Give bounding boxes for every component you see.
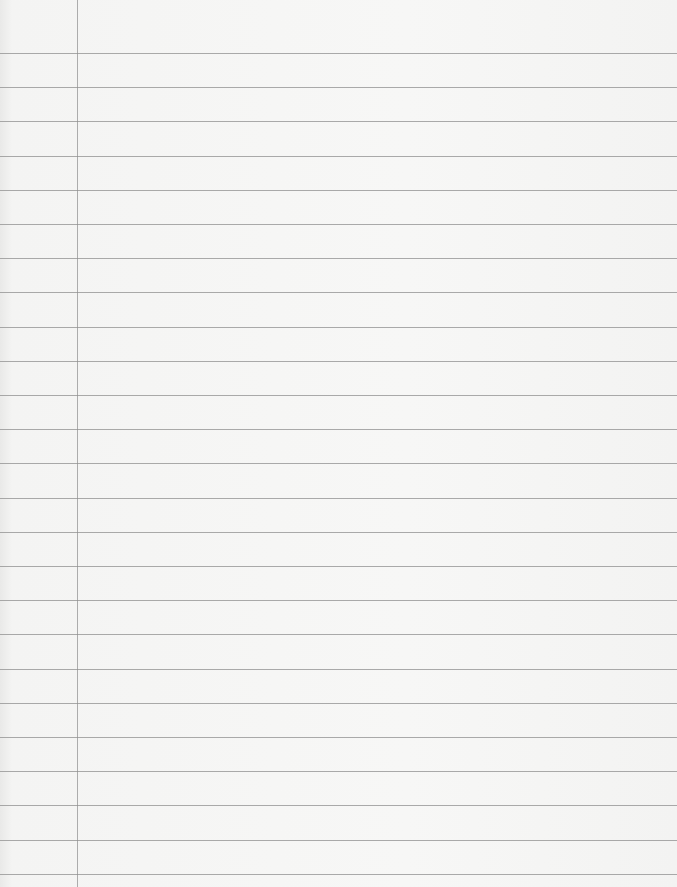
ruled-line [0, 327, 677, 328]
ruled-line [0, 498, 677, 499]
ruled-line [0, 361, 677, 362]
ruled-line [0, 258, 677, 259]
ruled-line [0, 156, 677, 157]
ruled-line [0, 87, 677, 88]
ruled-line [0, 53, 677, 54]
ruled-line [0, 600, 677, 601]
ruled-line [0, 190, 677, 191]
lined-paper-sheet [0, 0, 677, 887]
ruled-line [0, 566, 677, 567]
ruled-line [0, 292, 677, 293]
ruled-line [0, 429, 677, 430]
ruled-line [0, 532, 677, 533]
margin-line [77, 0, 78, 887]
ruled-line [0, 703, 677, 704]
ruled-line [0, 874, 677, 875]
ruled-line [0, 224, 677, 225]
ruled-line [0, 395, 677, 396]
ruled-line [0, 669, 677, 670]
ruled-line [0, 121, 677, 122]
ruled-line [0, 634, 677, 635]
ruled-line [0, 737, 677, 738]
ruled-line [0, 805, 677, 806]
ruled-line [0, 463, 677, 464]
ruled-line [0, 771, 677, 772]
ruled-line [0, 840, 677, 841]
